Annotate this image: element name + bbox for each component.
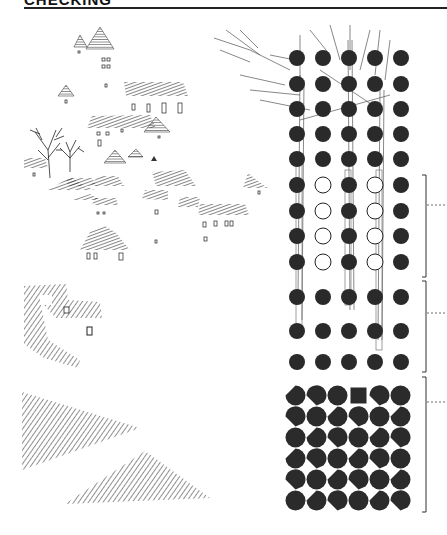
- shape-tile: [349, 491, 369, 511]
- filled-dot: [341, 76, 357, 92]
- filled-dot: [341, 151, 357, 167]
- filled-dot: [341, 228, 357, 244]
- filled-dot: [315, 289, 331, 305]
- filled-dot: [393, 203, 409, 219]
- bracket-group: [422, 175, 447, 512]
- shape-grid: [285, 385, 410, 510]
- filled-dot: [341, 354, 357, 370]
- shape-tile: [306, 448, 326, 468]
- filled-dot: [289, 151, 305, 167]
- filled-dot: [367, 101, 383, 117]
- shape-tile: [307, 491, 327, 511]
- filled-dot: [315, 126, 331, 142]
- open-dot: [367, 254, 383, 270]
- filled-dot: [341, 254, 357, 270]
- bracket: [422, 281, 426, 372]
- filled-dot: [393, 101, 409, 117]
- shape-tile: [391, 407, 411, 427]
- shape-tile: [286, 449, 306, 469]
- filled-dot: [315, 354, 331, 370]
- filled-dot: [289, 50, 305, 66]
- filled-dot: [289, 289, 305, 305]
- filled-dot: [341, 177, 357, 193]
- shape-tile: [285, 469, 305, 489]
- filled-dot: [393, 254, 409, 270]
- filled-dot: [393, 323, 409, 339]
- filled-dot: [315, 101, 331, 117]
- shape-tile: [348, 469, 368, 489]
- filled-dot: [289, 177, 305, 193]
- shape-tile: [349, 449, 369, 469]
- bracket: [422, 377, 426, 512]
- shape-tile: [348, 406, 368, 426]
- filled-dot: [393, 289, 409, 305]
- filled-dot: [367, 76, 383, 92]
- filled-dot: [341, 289, 357, 305]
- shape-tile: [307, 470, 327, 490]
- shape-tile: [369, 448, 389, 468]
- open-dot: [315, 203, 331, 219]
- open-dot: [367, 177, 383, 193]
- shape-tile: [370, 428, 390, 448]
- filled-dot: [393, 126, 409, 142]
- filled-dot: [289, 126, 305, 142]
- shape-tile: [328, 407, 348, 427]
- filled-dot: [341, 50, 357, 66]
- filled-dot: [393, 76, 409, 92]
- shape-tile: [285, 406, 305, 426]
- open-dot: [367, 203, 383, 219]
- dot-grid: [289, 50, 409, 370]
- filled-dot: [315, 151, 331, 167]
- filled-dot: [341, 126, 357, 142]
- shape-tile: [328, 449, 348, 469]
- filled-dot: [367, 323, 383, 339]
- shape-tile: [391, 386, 411, 406]
- shape-tile: [327, 427, 347, 447]
- filled-dot: [289, 203, 305, 219]
- filled-dot: [289, 76, 305, 92]
- village-sketch: [24, 27, 268, 260]
- filled-dot: [367, 126, 383, 142]
- filled-dot: [341, 323, 357, 339]
- filled-dot: [289, 354, 305, 370]
- filled-dot: [289, 228, 305, 244]
- bracket: [422, 175, 426, 277]
- filled-dot: [367, 50, 383, 66]
- filled-dot: [367, 354, 383, 370]
- bare-tree-left: [30, 128, 84, 178]
- filled-dot: [289, 323, 305, 339]
- shape-tile: [286, 491, 306, 511]
- shape-tile: [286, 428, 306, 448]
- filled-dot: [393, 228, 409, 244]
- shape-tile: [306, 385, 326, 405]
- shape-tile: [391, 449, 411, 469]
- shape-tile: [370, 491, 390, 511]
- shape-tile: [286, 386, 306, 406]
- filled-dot: [393, 177, 409, 193]
- filled-dot: [367, 151, 383, 167]
- shape-tile: [328, 470, 348, 490]
- shape-tile: [307, 428, 327, 448]
- roof-detail-sketch: [24, 284, 102, 368]
- slope-sketches: [22, 392, 210, 504]
- shape-tile: [369, 385, 389, 405]
- shape-tile: [328, 386, 348, 406]
- filled-dot: [341, 203, 357, 219]
- filled-dot: [315, 323, 331, 339]
- open-dot: [315, 228, 331, 244]
- shape-tile: [390, 490, 410, 510]
- shape-tile: [351, 388, 367, 404]
- open-dot: [315, 177, 331, 193]
- shape-tile: [370, 470, 390, 490]
- open-dot: [315, 254, 331, 270]
- filled-dot: [289, 101, 305, 117]
- filled-dot: [393, 354, 409, 370]
- filled-dot: [393, 50, 409, 66]
- shape-tile: [391, 470, 411, 490]
- filled-dot: [289, 254, 305, 270]
- shape-tile: [390, 427, 410, 447]
- shape-tile: [307, 407, 327, 427]
- filled-dot: [367, 289, 383, 305]
- filled-dot: [393, 151, 409, 167]
- shape-tile: [370, 407, 390, 427]
